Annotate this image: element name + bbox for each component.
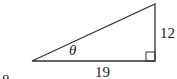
partial-label: 8 xyxy=(2,72,10,79)
triangle xyxy=(32,4,155,61)
opposite-side-label: 12 xyxy=(160,25,175,41)
adjacent-side-label: 19 xyxy=(95,64,110,79)
right-angle-marker xyxy=(146,52,155,61)
angle-label: θ xyxy=(69,42,77,58)
triangle-diagram: θ 12 19 8 xyxy=(0,0,177,79)
